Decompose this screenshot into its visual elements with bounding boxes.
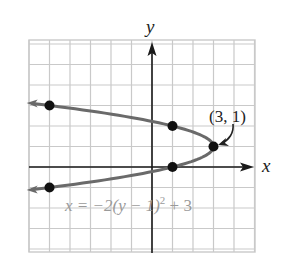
y-axis-label: y <box>144 16 155 37</box>
vertex-label: (3, 1) <box>209 107 246 126</box>
plot-canvas: y x (3, 1) x = −2(y − 1)2 + 3 <box>0 0 284 261</box>
parabola-graph: y x (3, 1) x = −2(y − 1)2 + 3 <box>0 0 284 261</box>
equation-prefix: x = −2(y − 1) <box>64 196 160 215</box>
data-point <box>168 162 178 172</box>
equation-suffix: + 3 <box>165 196 192 215</box>
x-axis-label: x <box>261 155 271 176</box>
data-point <box>168 121 178 131</box>
grid-lines <box>29 40 255 252</box>
equation-label: x = −2(y − 1)2 + 3 <box>64 194 192 215</box>
axes <box>29 42 254 253</box>
data-point <box>45 101 55 111</box>
data-point <box>45 183 55 193</box>
data-point <box>209 142 219 152</box>
